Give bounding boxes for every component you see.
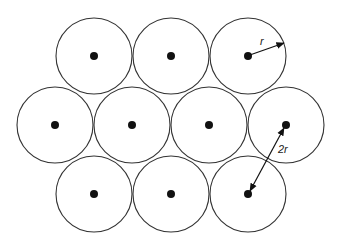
center-dot-middle-1 (51, 121, 59, 129)
center-dot-middle-4 (282, 121, 290, 129)
distance-label: 2r (277, 143, 289, 155)
center-dot-bottom-3 (244, 190, 252, 198)
distance-arrow (250, 128, 284, 191)
center-dot-bottom-1 (90, 190, 98, 198)
hex-packing-diagram: r 2r (0, 0, 339, 250)
center-dot-bottom-2 (167, 190, 175, 198)
center-dot-top-1 (90, 52, 98, 60)
radius-label: r (260, 35, 265, 47)
center-dot-middle-3 (205, 121, 213, 129)
center-dot-middle-2 (128, 121, 136, 129)
radius-arrow (247, 43, 284, 56)
center-dot-top-2 (167, 52, 175, 60)
